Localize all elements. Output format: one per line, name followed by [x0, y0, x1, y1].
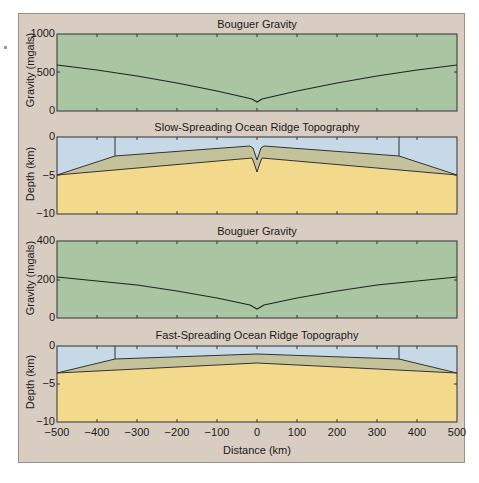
- plot-fast-topography: [57, 346, 457, 422]
- plots-svg: [0, 0, 479, 483]
- plot-slow-topography: [57, 137, 457, 214]
- plot-bouguer-slow: [57, 34, 457, 111]
- plot-bouguer-fast: [57, 241, 457, 318]
